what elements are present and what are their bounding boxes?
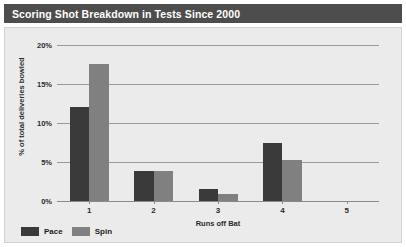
bar-spin-3 [218, 194, 238, 201]
legend-swatch-pace [21, 227, 39, 236]
x-tick [89, 201, 90, 204]
y-tick-label: 10% [37, 119, 52, 128]
chart-legend: PaceSpin [21, 227, 112, 236]
chart-title: Scoring Shot Breakdown in Tests Since 20… [4, 8, 240, 20]
x-tick-label: 3 [216, 206, 220, 215]
chart-figure: Scoring Shot Breakdown in Tests Since 20… [0, 0, 406, 247]
bar-spin-2 [154, 171, 174, 201]
bar-pace-2 [134, 171, 154, 201]
x-tick [154, 201, 155, 204]
x-tick-label: 1 [87, 206, 91, 215]
x-tick [282, 201, 283, 204]
legend-label: Spin [95, 227, 112, 236]
legend-swatch-spin [72, 227, 90, 236]
y-tick-label: 20% [37, 41, 52, 50]
y-tick-label: 5% [41, 158, 52, 167]
plot-area: 0%5%10%15%20% 12345 Runs off Bat [57, 45, 379, 201]
bars-layer [57, 45, 379, 201]
x-tick [347, 201, 348, 204]
bar-spin-4 [282, 160, 302, 201]
x-tick [218, 201, 219, 204]
legend-label: Pace [44, 227, 63, 236]
bar-pace-3 [199, 189, 219, 201]
bar-pace-4 [263, 143, 283, 202]
x-tick-label: 2 [151, 206, 155, 215]
chart-title-bar: Scoring Shot Breakdown in Tests Since 20… [4, 4, 402, 23]
y-tick-label: 15% [37, 80, 52, 89]
bar-pace-1 [70, 107, 90, 201]
legend-item-pace: Pace [21, 227, 63, 236]
x-tick-label: 5 [345, 206, 349, 215]
plot-panel: % of total deliveries bowled 0%5%10%15%2… [4, 27, 402, 243]
y-axis-title: % of total deliveries bowled [17, 47, 26, 167]
x-tick-label: 4 [280, 206, 284, 215]
y-tick-label: 0% [41, 197, 52, 206]
bar-spin-1 [89, 64, 109, 201]
legend-item-spin: Spin [72, 227, 112, 236]
